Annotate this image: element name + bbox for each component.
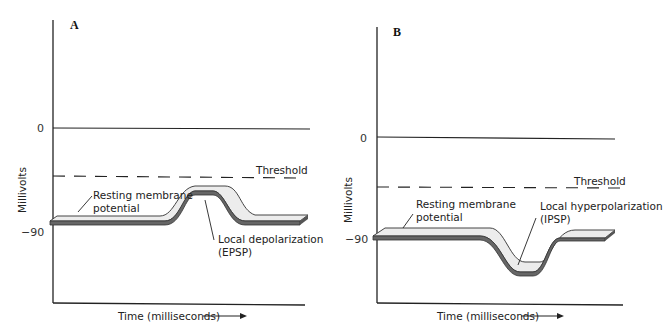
y-tick-minus-90: −90 xyxy=(345,233,368,246)
diagram-canvas: A 0 −90 Millivolts Threshold Time (milli… xyxy=(0,0,663,336)
zero-line xyxy=(377,137,615,139)
threshold-line xyxy=(377,187,623,188)
x-axis xyxy=(53,303,305,305)
ipsp-ribbon xyxy=(373,228,615,276)
zero-line xyxy=(53,128,310,129)
resting-label-2: potential xyxy=(416,211,463,223)
threshold-label: Threshold xyxy=(255,164,308,176)
panel-letter: B xyxy=(393,25,401,39)
epsp-callout-line xyxy=(205,200,214,240)
resting-label-1: Resting membrane xyxy=(416,198,516,210)
ipsp-callout-line xyxy=(518,218,536,265)
panel-b: B 0 −90 Millivolts Threshold Time (milli… xyxy=(342,25,663,322)
resting-callout-line xyxy=(78,196,92,212)
resting-label-1: Resting membrane xyxy=(93,189,193,201)
epsp-label-1: Local depolarization xyxy=(218,233,323,245)
threshold-line xyxy=(53,176,305,178)
panel-a: A 0 −90 Millivolts Threshold Time (milli… xyxy=(16,18,323,322)
resting-label-2: potential xyxy=(93,202,140,214)
resting-callout-line xyxy=(403,214,413,228)
x-axis xyxy=(377,303,623,305)
threshold-label: Threshold xyxy=(573,175,626,187)
epsp-label-2: (EPSP) xyxy=(218,246,252,258)
y-tick-minus-90: −90 xyxy=(21,226,44,239)
y-tick-zero: 0 xyxy=(360,132,367,145)
y-tick-zero: 0 xyxy=(37,122,44,135)
ipsp-label-2: (IPSP) xyxy=(540,213,571,225)
y-axis-label: Millivolts xyxy=(342,177,354,223)
panel-letter: A xyxy=(70,18,79,32)
ipsp-label-1: Local hyperpolarization xyxy=(540,200,663,212)
y-axis-label: Millivolts xyxy=(16,167,28,213)
